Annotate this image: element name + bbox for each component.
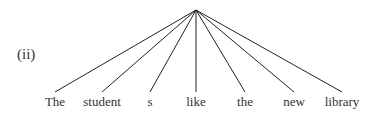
word-node: The <box>45 94 65 110</box>
word-node: the <box>237 94 253 110</box>
tree-edge <box>196 10 342 92</box>
word-node: s <box>147 94 152 110</box>
word-node: student <box>83 94 121 110</box>
dependency-tree-diagram: (ii) The student s like the new library <box>0 0 375 117</box>
word-node: like <box>186 94 206 110</box>
tree-edge <box>196 10 294 92</box>
word-node: library <box>325 94 360 110</box>
tree-edge <box>55 10 196 92</box>
tree-edge <box>102 10 196 92</box>
word-node: new <box>283 94 305 110</box>
tree-edge <box>150 10 196 92</box>
tree-edge <box>196 10 245 92</box>
example-label: (ii) <box>17 46 35 63</box>
